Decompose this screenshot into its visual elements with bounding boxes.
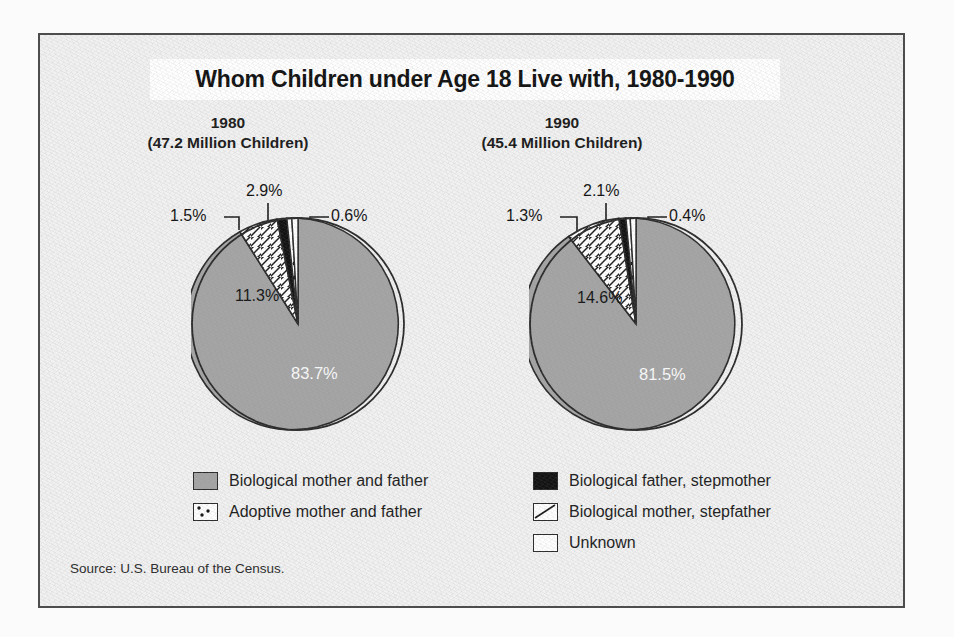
hatched-square-icon: [533, 503, 558, 521]
legend-label-biological-mother-and-father: Biological mother and father: [229, 472, 428, 490]
legend-item-biological-mother-stepfather[interactable]: Biological mother, stepfather: [533, 496, 771, 527]
scanned-page: Whom Children under Age 18 Live with, 19…: [0, 0, 954, 637]
legend-label-unknown: Unknown: [569, 534, 636, 552]
panel-heading-1990: 1990 (45.4 Million Children): [412, 113, 712, 153]
panel-year-1980: 1980: [78, 113, 378, 133]
chart-title: Whom Children under Age 18 Live with, 19…: [195, 66, 734, 93]
dotted-square-icon: [193, 503, 218, 521]
callout-black-1980: 2.9%: [246, 182, 282, 200]
pie-label-hatched-1990: 14.6%: [577, 289, 622, 307]
callout-black-1990: 2.1%: [583, 182, 619, 200]
black-square-icon: [533, 472, 558, 490]
pie-label-hatched-1980: 11.3%: [235, 287, 279, 305]
gray-square-icon: [193, 472, 218, 490]
pie-svg-1990: [529, 217, 743, 431]
pie-chart-1980: 11.3% 83.7%: [191, 217, 405, 431]
legend-label-biological-mother-stepfather: Biological mother, stepfather: [569, 503, 771, 521]
panel-count-1990: (45.4 Million Children): [412, 133, 712, 153]
panel-heading-1980: 1980 (47.2 Million Children): [78, 113, 378, 153]
pie-label-gray-1980: 83.7%: [291, 364, 338, 383]
chart-title-box: Whom Children under Age 18 Live with, 19…: [150, 59, 780, 100]
legend-item-adoptive-mother-and-father[interactable]: Adoptive mother and father: [193, 496, 428, 527]
legend-label-adoptive-mother-and-father: Adoptive mother and father: [229, 503, 422, 521]
figure-frame: Whom Children under Age 18 Live with, 19…: [38, 33, 905, 608]
white-square-icon: [533, 534, 558, 552]
panel-count-1980: (47.2 Million Children): [78, 133, 378, 153]
legend-item-biological-father-stepmother[interactable]: Biological father, stepmother: [533, 465, 771, 496]
legend-item-unknown[interactable]: Unknown: [533, 527, 771, 558]
pie-svg-1980: [191, 217, 405, 431]
pie-chart-1990: 14.6% 81.5%: [529, 217, 743, 431]
legend-column-right: Biological father, stepmother Biological…: [533, 465, 771, 558]
legend-column-left: Biological mother and father Adoptive mo…: [193, 465, 428, 527]
pie-label-gray-1990: 81.5%: [639, 365, 686, 384]
legend-label-biological-father-stepmother: Biological father, stepmother: [569, 472, 771, 490]
panel-year-1990: 1990: [412, 113, 712, 133]
legend-item-biological-mother-and-father[interactable]: Biological mother and father: [193, 465, 428, 496]
source-note: Source: U.S. Bureau of the Census.: [70, 561, 285, 576]
